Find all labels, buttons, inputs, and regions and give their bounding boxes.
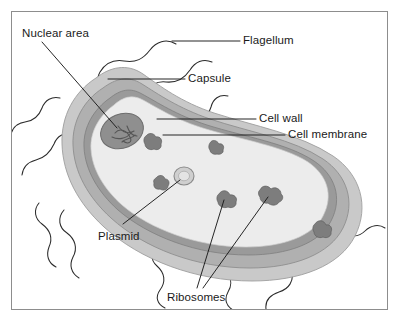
label-plasmid: Plasmid <box>98 231 140 243</box>
flagellum-icon <box>60 210 79 278</box>
flagellum-icon <box>35 203 56 267</box>
label-cell-wall: Cell wall <box>259 113 303 125</box>
cell-diagram-canvas <box>0 0 401 324</box>
label-nuclear-area: Nuclear area <box>22 28 89 40</box>
label-flagellum: Flagellum <box>243 35 294 47</box>
bacterial-cell-figure: Nuclear area Flagellum Capsule Cell wall… <box>0 0 401 324</box>
label-ribosomes: Ribosomes <box>167 292 225 304</box>
flagellum-icon <box>11 97 60 134</box>
label-cell-membrane: Cell membrane <box>288 129 367 141</box>
label-capsule: Capsule <box>188 73 231 85</box>
